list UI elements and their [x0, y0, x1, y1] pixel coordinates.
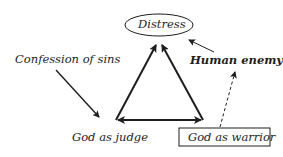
god-warrior-label: God as warrior: [188, 132, 275, 144]
god-judge-label: God as judge: [72, 132, 148, 144]
confession-label: Confession of sins: [15, 54, 120, 66]
edge-confession-to-judge: [56, 70, 99, 117]
edge-enemy-to-distress: [189, 40, 214, 52]
edge-warrior-to-enemy: [220, 72, 235, 127]
human-enemy-label: Human enemy: [190, 55, 283, 67]
distress-label: Distress: [138, 19, 186, 31]
diagram: Distress Confession of sins Human enemy …: [0, 0, 283, 157]
edge-judge-to-distress: [116, 45, 156, 120]
